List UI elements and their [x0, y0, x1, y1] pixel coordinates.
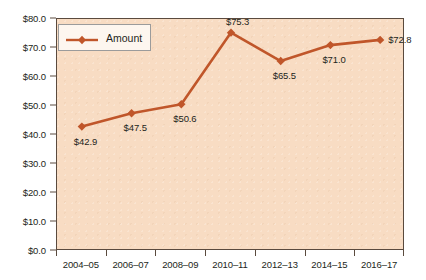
data-point-label: $71.0 — [322, 54, 345, 65]
series-amount — [57, 19, 405, 251]
y-tick-label: $70.0 — [23, 42, 46, 53]
x-tick-mark — [403, 250, 404, 256]
x-tick-label: 2004–05 — [63, 259, 99, 270]
x-tick-label: 2006–07 — [112, 259, 148, 270]
x-tick-mark — [56, 250, 57, 256]
data-point-label: $65.5 — [273, 70, 296, 81]
x-tick-mark — [205, 250, 206, 256]
y-axis: $0.0$10.0$20.0$30.0$40.0$50.0$60.0$70.0$… — [0, 0, 56, 250]
data-point-label: $47.5 — [124, 122, 147, 133]
y-tick-label: $30.0 — [23, 158, 46, 169]
x-tick-label: 2014–15 — [311, 259, 347, 270]
y-tick-label: $0.0 — [28, 245, 46, 256]
x-tick-mark — [354, 250, 355, 256]
y-tick-label: $10.0 — [23, 216, 46, 227]
data-point-marker — [127, 109, 135, 117]
x-tick-label: 2008–09 — [162, 259, 198, 270]
x-axis: 2004–052006–072008–092010–112012–132014–… — [56, 250, 404, 280]
plot-area: $42.9$47.5$50.6$75.3$65.5$71.0$72.8 Amou… — [56, 18, 404, 250]
y-tick-label: $20.0 — [23, 187, 46, 198]
y-tick-label: $40.0 — [23, 129, 46, 140]
x-tick-label: 2016–17 — [361, 259, 397, 270]
legend-label-amount: Amount — [106, 32, 142, 44]
data-point-marker — [326, 41, 334, 49]
legend: Amount — [58, 24, 151, 51]
y-tick-label: $80.0 — [23, 13, 46, 24]
legend-line-marker-icon — [65, 32, 99, 44]
data-point-marker — [78, 122, 86, 130]
data-point-label: $42.9 — [74, 136, 97, 147]
y-tick-label: $60.0 — [23, 71, 46, 82]
x-tick-mark — [106, 250, 107, 256]
x-tick-label: 2012–13 — [262, 259, 298, 270]
x-tick-mark — [305, 250, 306, 256]
data-point-label: $50.6 — [173, 113, 196, 124]
data-point-label: $75.3 — [226, 16, 249, 27]
data-point-label: $72.8 — [388, 34, 411, 45]
x-tick-mark — [255, 250, 256, 256]
line-chart: $0.0$10.0$20.0$30.0$40.0$50.0$60.0$70.0$… — [0, 0, 426, 280]
x-tick-mark — [155, 250, 156, 256]
data-point-marker — [376, 36, 384, 44]
x-tick-label: 2010–11 — [212, 259, 248, 270]
y-tick-label: $50.0 — [23, 100, 46, 111]
